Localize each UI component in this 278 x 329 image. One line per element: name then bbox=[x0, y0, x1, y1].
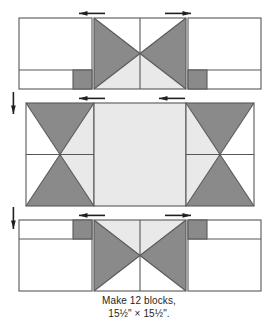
side-unit-middle-right bbox=[186, 103, 254, 206]
caption-line-1: Make 12 blocks, bbox=[0, 294, 278, 307]
caption-line-2: 15½" × 15½". bbox=[0, 307, 278, 320]
pressing-arrow-seam-bottom bbox=[11, 207, 16, 229]
pressing-arrow-seam-top bbox=[11, 92, 16, 114]
hourglass-unit-top-center bbox=[94, 18, 186, 89]
pressing-arrow-top-row-left bbox=[79, 11, 105, 16]
pressing-arrow-bottom-row-right bbox=[165, 213, 191, 218]
center-square-unit bbox=[94, 103, 186, 206]
corner-unit-bottom-light-left bbox=[19, 220, 92, 291]
corner-unit-top-light-left bbox=[19, 18, 92, 89]
pressing-arrow-middle-row-left bbox=[79, 96, 105, 101]
pressing-arrow-middle-row-right bbox=[159, 96, 185, 101]
pressing-arrow-top-row-right bbox=[165, 11, 191, 16]
quilt-block-assembly-diagram: Make 12 blocks, 15½" × 15½". bbox=[0, 0, 278, 329]
side-unit-middle-left bbox=[26, 103, 94, 206]
hourglass-unit-bottom-center bbox=[94, 220, 186, 291]
pressing-arrow-bottom-row-left bbox=[79, 213, 105, 218]
corner-unit-top-light-right bbox=[188, 18, 261, 89]
quilt-diagram-svg bbox=[0, 0, 278, 329]
diagram-caption: Make 12 blocks, 15½" × 15½". bbox=[0, 294, 278, 320]
corner-unit-bottom-light-right bbox=[188, 220, 261, 291]
